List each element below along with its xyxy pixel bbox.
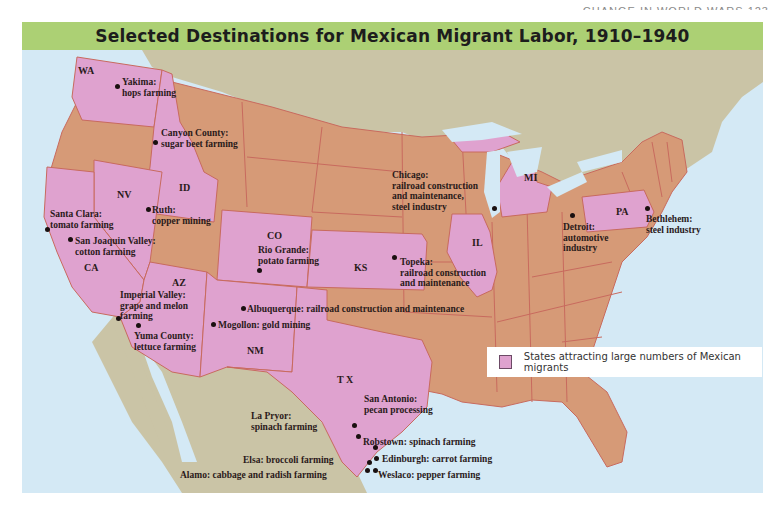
- dot-chicago: [492, 206, 497, 211]
- state-label-ks: KS: [354, 262, 367, 273]
- label-albuquerque: Albuquerque: railroad construction and m…: [247, 304, 464, 315]
- dot-san-antonio: [356, 434, 361, 439]
- state-label-nm: NM: [247, 345, 264, 356]
- label-santa-clara: Santa Clara:tomato farming: [50, 209, 114, 230]
- map-title-bar: Selected Destinations for Mexican Migran…: [22, 22, 763, 50]
- state-label-ca: CA: [84, 262, 98, 273]
- dot-ruth: [146, 207, 151, 212]
- state-label-pa: PA: [616, 206, 629, 217]
- dot-yuma: [136, 323, 141, 328]
- dot-topeka: [392, 255, 397, 260]
- state-label-co: CO: [267, 230, 282, 241]
- dot-san-joaquin: [68, 237, 73, 242]
- label-canyon-county: Canyon County:sugar beet farming: [161, 128, 238, 149]
- label-san-antonio: San Antonio:pecan processing: [364, 394, 433, 415]
- label-imperial-valley: Imperial Valley:grape and melonfarming: [120, 290, 188, 322]
- state-label-tx: T X: [337, 374, 353, 385]
- dot-albuquerque: [241, 306, 246, 311]
- label-mogollon: Mogollon: gold mining: [218, 320, 310, 331]
- dot-edinburgh: [374, 456, 379, 461]
- dot-elsa: [367, 460, 372, 465]
- state-label-nv: NV: [117, 189, 131, 200]
- label-yakima: Yakima:hops farming: [122, 77, 176, 98]
- dot-detroit: [570, 213, 575, 218]
- map-legend: States attracting large numbers of Mexic…: [487, 347, 762, 377]
- label-rio-grande: Rio Grande:potato farming: [258, 245, 319, 266]
- label-bethlehem: Bethlehem:steel industry: [646, 214, 701, 235]
- legend-label: States attracting large numbers of Mexic…: [524, 351, 762, 373]
- state-label-id: ID: [179, 182, 190, 193]
- label-yuma: Yuma County:lettuce farming: [134, 331, 196, 352]
- label-la-pryor: La Pryor:spinach farming: [251, 411, 317, 432]
- label-detroit: Detroit:automotiveindustry: [563, 222, 608, 254]
- dot-mogollon: [211, 322, 216, 327]
- dot-bethlehem: [645, 206, 650, 211]
- label-chicago: Chicago:railroad constructionand mainten…: [392, 170, 478, 212]
- dot-la-pryor: [352, 423, 357, 428]
- dot-canyon-county: [153, 140, 158, 145]
- label-edinburgh: Edinburgh: carrot farming: [382, 454, 492, 465]
- state-label-mi: MI: [524, 172, 537, 183]
- running-head: CHANGE IN WORLD WARS 123: [583, 2, 769, 10]
- state-label-il: IL: [472, 237, 483, 248]
- dot-alamo: [365, 468, 370, 473]
- legend-swatch-highlighted: [499, 355, 512, 369]
- dot-rio-grande: [257, 268, 262, 273]
- label-topeka: Topeka:railroad constructionand maintena…: [400, 257, 486, 289]
- label-robstown: Robstown: spinach farming: [363, 437, 475, 448]
- state-label-wa: WA: [78, 65, 94, 76]
- map-frame: Selected Destinations for Mexican Migran…: [22, 22, 763, 493]
- map-title: Selected Destinations for Mexican Migran…: [95, 26, 689, 46]
- state-label-az: AZ: [172, 277, 186, 288]
- label-ruth: Ruth:copper mining: [152, 205, 211, 226]
- label-alamo: Alamo: cabbage and radish farming: [180, 470, 327, 481]
- dot-yakima: [115, 84, 120, 89]
- label-elsa: Elsa: broccoli farming: [243, 455, 334, 466]
- label-san-joaquin: San Joaquin Valley:cotton farming: [75, 236, 156, 257]
- label-weslaco: Weslaco: pepper farming: [378, 470, 480, 481]
